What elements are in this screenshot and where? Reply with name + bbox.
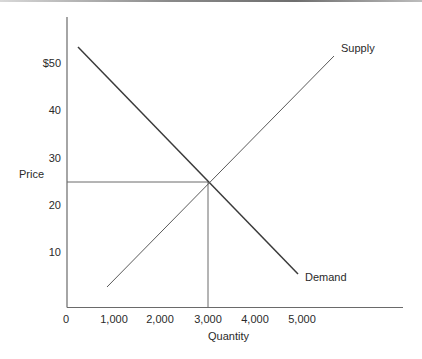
y-axis-title: Price: [19, 169, 44, 180]
supply-line: [107, 56, 334, 287]
x-tick-5000: 5,000: [282, 314, 322, 325]
y-tick-50: $50: [21, 58, 61, 69]
x-tick-2000: 2,000: [140, 314, 180, 325]
demand-line: [78, 47, 298, 274]
y-tick-40: 40: [21, 105, 61, 116]
supply-label: Supply: [341, 43, 375, 54]
x-tick-1000: 1,000: [94, 314, 134, 325]
x-tick-0: 0: [46, 314, 86, 325]
x-tick-3000: 3,000: [188, 314, 228, 325]
demand-label: Demand: [305, 272, 347, 283]
y-tick-30: 30: [21, 153, 61, 164]
y-tick-20: 20: [21, 200, 61, 211]
x-axis-title: Quantity: [208, 331, 249, 342]
y-tick-10: 10: [21, 247, 61, 258]
x-tick-4000: 4,000: [235, 314, 275, 325]
